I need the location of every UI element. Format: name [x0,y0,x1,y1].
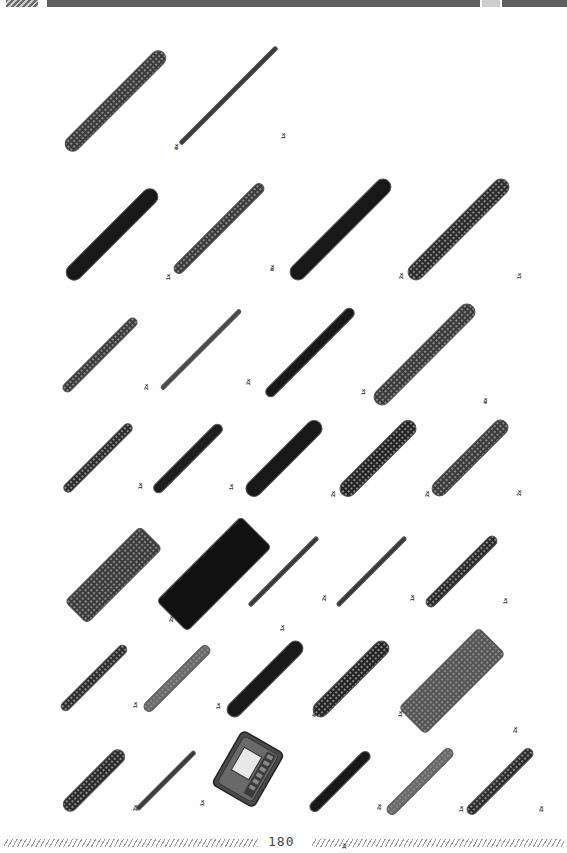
quantity-label: 1x [503,598,509,605]
quantity-label: 4x [174,144,180,151]
beam-icon [62,185,162,285]
beam-thin-icon [171,181,266,276]
part-plate: 2x [393,622,522,737]
quantity-label: 1x [281,133,287,140]
part-beam: 2x [334,415,434,501]
beam-thin-icon [423,533,499,609]
quantity-label: 1x [216,703,222,710]
plate-icon [64,526,162,624]
header-band [47,0,480,7]
shaft-icon [178,45,278,145]
beam-wide-icon [62,47,170,155]
beam-icon [310,638,393,721]
part-beam: 2x [427,415,526,500]
part-beam: 2x [284,173,408,283]
beam-icon [336,417,420,501]
part-beam-thin: 2x [306,748,386,814]
part-beam-thin: 1x [383,745,468,816]
footer-hatch-left [4,839,258,847]
plate-icon [398,627,505,734]
quantity-label: 4x [483,398,489,405]
part-beam-thin: 1x [150,420,238,494]
part-beam-thin: 1x [262,305,370,399]
shaft-icon [135,750,197,812]
quantity-label: 1x [410,595,416,602]
beam-thin-icon [141,643,212,714]
quantity-label: 1x [228,484,234,491]
robot-brain-icon [212,728,284,814]
quantity-label: 2x [143,383,149,390]
beam-thin-icon [384,746,455,817]
beam-icon [429,417,512,500]
shaft-icon [247,535,319,607]
shaft-icon [160,308,243,391]
beam-thin-icon [307,749,373,815]
quantity-label: 1x [517,273,523,280]
part-beam: 2x [58,745,142,815]
quantity-label: 2x [322,595,328,602]
part-beam-wide: 4x [60,45,183,154]
quantity-label: 1x [137,483,143,490]
part-beam-thin: 2x [463,745,548,816]
header-tab-light [482,0,500,7]
beam-icon [404,175,513,284]
quantity-label: 2x [245,378,251,385]
part-beam-thin: 1x [140,642,225,713]
beam-icon [224,638,307,721]
part-beam: 4x [222,636,321,721]
quantity-label: 8x [270,265,276,272]
quantity-label: 2x [539,806,545,813]
beam-icon [286,175,395,284]
beam-thin-icon [61,316,140,395]
beam-thin-icon [59,643,130,714]
part-beam-thin: 1x [58,642,142,712]
header-band-end [502,0,567,7]
page-footer: 180 [0,836,567,850]
beam-thin-icon [263,306,357,400]
part-beam: 1x [402,173,526,283]
quantity-label: 2x [376,803,382,810]
part-beam: 1x [60,183,175,284]
part-beam-thin: 2x [60,315,153,394]
part-beam: 2x [240,415,340,501]
part-beam-wide: 4x [368,298,492,408]
part-shaft: 1x [135,750,209,810]
quantity-label: 1x [133,702,139,709]
part-beam: 1x [308,636,407,721]
beam-wide-icon [370,300,479,409]
shaft-icon [335,535,407,607]
part-beam-thin: 1x [60,420,147,493]
quantity-label: 2x [516,489,522,496]
part-shaft: 2x [160,308,255,389]
page-number: 180 [268,834,294,849]
beam-thin-icon [151,421,225,495]
beam-icon [242,417,326,501]
header-hatch [6,0,38,7]
part-shaft: 2x [247,535,331,605]
beam-icon [59,746,128,815]
footer-hatch-right [312,839,564,847]
quantity-label: 1x [280,625,286,632]
part-beam-thin: 8x [170,180,279,275]
quantity-label: 1x [199,799,205,806]
part-beam-thin: 1x [422,532,512,608]
part-shaft: 1x [178,45,290,143]
part-shaft: 1x [335,535,419,605]
quantity-label: 2x [513,727,519,734]
quantity-label: 1x [360,388,366,395]
beam-thin-icon [61,421,135,495]
header-bar [0,0,567,8]
beam-thin-icon [464,746,535,817]
